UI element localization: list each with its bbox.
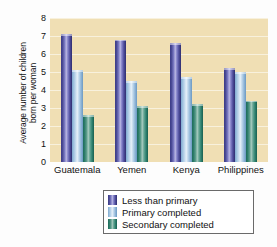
bar-highlight: [235, 72, 246, 74]
y-axis-tick-label: 4: [30, 85, 46, 95]
bar: [224, 68, 235, 162]
bar-highlight: [115, 40, 126, 42]
bar-highlight: [137, 106, 148, 108]
bar-highlight: [181, 77, 192, 79]
bar-chart-figure: Average number of children born per woma…: [0, 0, 277, 247]
y-axis-tick-label: 1: [30, 139, 46, 149]
bar: [235, 72, 246, 162]
bar-highlight: [126, 81, 137, 83]
legend-swatch: [108, 207, 117, 217]
y-axis-tick-label: 7: [30, 31, 46, 41]
y-axis-tick-label: 2: [30, 121, 46, 131]
x-axis-category-label: Yemen: [117, 164, 146, 175]
bar: [170, 43, 181, 162]
y-axis-tick-label: 5: [30, 67, 46, 77]
legend-swatch: [108, 195, 117, 205]
y-axis-tick-label: 0: [30, 157, 46, 167]
x-axis-category-label: Guatemala: [54, 164, 100, 175]
y-axis-tick-labels: 012345678: [30, 18, 46, 162]
legend-label: Secondary completed: [122, 219, 214, 230]
bar-group: [61, 18, 94, 162]
legend-item: Less than primary: [108, 194, 249, 206]
bar-highlight: [170, 43, 181, 45]
bar-group: [115, 18, 148, 162]
bar-highlight: [224, 68, 235, 70]
bar: [126, 81, 137, 162]
x-axis-category-label: Philippines: [218, 164, 264, 175]
legend-label: Primary completed: [122, 207, 201, 218]
bar: [72, 70, 83, 162]
bar: [115, 40, 126, 162]
y-axis-tick-label: 6: [30, 49, 46, 59]
x-axis-category-label: Kenya: [173, 164, 200, 175]
bar-highlight: [246, 101, 257, 103]
bar-group: [224, 18, 257, 162]
bar: [192, 104, 203, 162]
bar-highlight: [192, 104, 203, 106]
legend-item: Secondary completed: [108, 218, 249, 230]
x-axis-category-labels: GuatemalaYemenKenyaPhilippines: [50, 164, 268, 178]
bar-group: [170, 18, 203, 162]
legend-swatch: [108, 219, 117, 229]
legend-item: Primary completed: [108, 206, 249, 218]
plot-area: [50, 18, 268, 162]
bar-highlight: [72, 70, 83, 72]
bar: [83, 115, 94, 162]
bar: [181, 77, 192, 162]
y-axis-tick-label: 3: [30, 103, 46, 113]
y-axis-tick-label: 8: [30, 13, 46, 23]
y-axis-title-line-1: Average number of children: [18, 42, 29, 144]
bar-highlight: [61, 34, 72, 36]
bar: [61, 34, 72, 162]
bar: [246, 101, 257, 162]
bar: [137, 106, 148, 162]
chart-legend: Less than primaryPrimary completedSecond…: [103, 190, 254, 234]
bar-highlight: [83, 115, 94, 117]
legend-label: Less than primary: [122, 195, 198, 206]
